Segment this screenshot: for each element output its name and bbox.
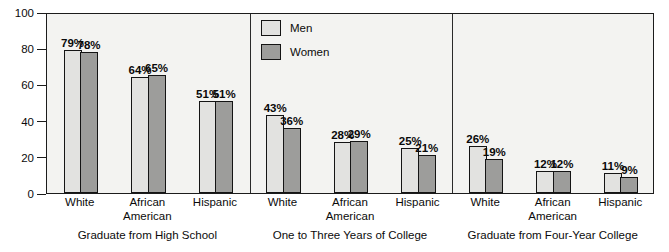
- bar-value-label: 43%: [264, 102, 287, 115]
- bar-value-label: 21%: [415, 142, 438, 155]
- x-axis-category-label: AfricanAmerican: [316, 196, 384, 223]
- y-axis-tick-mark: [37, 157, 46, 158]
- bar-group: 64%65%: [115, 14, 183, 193]
- bar-men[interactable]: 64%: [131, 77, 149, 193]
- bar-group: 79%78%: [47, 14, 115, 193]
- bar-women[interactable]: 65%: [148, 75, 166, 193]
- legend-label: Women: [290, 46, 329, 58]
- panel-caption: Graduate from Four-Year College: [451, 228, 654, 242]
- x-axis-category-line: Hispanic: [181, 196, 249, 210]
- y-axis-tick: 80: [21, 43, 46, 55]
- x-axis-category-label: Hispanic: [384, 196, 452, 210]
- x-axis-category-line: American: [114, 210, 182, 224]
- bar-group: 51%51%: [182, 14, 250, 193]
- y-axis-tick: 100: [15, 7, 46, 19]
- y-axis-tick-mark: [37, 13, 46, 14]
- y-axis-tick-mark: [37, 121, 46, 122]
- x-axis-category-line: Hispanic: [586, 196, 654, 210]
- x-axis-category-line: American: [519, 210, 587, 224]
- bar-women[interactable]: 21%: [418, 155, 436, 193]
- x-axis-category-line: American: [316, 210, 384, 224]
- bar-group: 26%19%: [452, 14, 520, 193]
- y-axis-tick: 20: [21, 152, 46, 164]
- x-axis-category-label: Hispanic: [586, 196, 654, 210]
- bar-pair: 25%21%: [385, 14, 453, 193]
- y-axis-tick-label: 60: [21, 79, 34, 91]
- bar-women[interactable]: 19%: [485, 159, 503, 193]
- y-axis: 020406080100: [0, 0, 46, 252]
- bar-pair: 11%9%: [587, 14, 655, 193]
- y-axis-tick-label: 0: [28, 188, 34, 200]
- bar-men[interactable]: 79%: [64, 50, 82, 193]
- bar-value-label: 78%: [78, 39, 101, 52]
- x-axis-category-label: White: [451, 196, 519, 210]
- bar-value-label: 26%: [466, 133, 489, 146]
- bar-pair: 64%65%: [115, 14, 183, 193]
- y-axis-tick-label: 100: [15, 7, 34, 19]
- chart-panel: 26%19%12%12%11%9%: [452, 14, 655, 193]
- bar-value-label: 36%: [280, 115, 303, 128]
- bar-value-label: 9%: [621, 164, 638, 177]
- bar-women[interactable]: 78%: [80, 52, 98, 193]
- x-axis-category-line: African: [114, 196, 182, 210]
- bar-women[interactable]: 36%: [283, 128, 301, 193]
- grouped-bar-chart: 020406080100 79%78%64%65%51%51%43%36%28%…: [0, 0, 669, 252]
- chart-panel: 79%78%64%65%51%51%: [47, 14, 250, 193]
- bar-pair: 51%51%: [182, 14, 250, 193]
- legend-item-women[interactable]: Women: [261, 43, 371, 60]
- bar-men[interactable]: 28%: [334, 142, 352, 193]
- bar-men[interactable]: 51%: [199, 101, 217, 193]
- bar-group: 11%9%: [587, 14, 655, 193]
- bar-women[interactable]: 9%: [620, 177, 638, 193]
- bar-value-label: 19%: [483, 146, 506, 159]
- bar-value-label: 65%: [145, 62, 168, 75]
- bar-group: 12%12%: [520, 14, 588, 193]
- bar-pair: 12%12%: [520, 14, 588, 193]
- bar-men[interactable]: 12%: [536, 171, 554, 193]
- y-axis-tick: 0: [28, 188, 46, 200]
- x-axis-category-label: AfricanAmerican: [114, 196, 182, 223]
- y-axis-tick-label: 20: [21, 152, 34, 164]
- bar-pair: 79%78%: [47, 14, 115, 193]
- x-axis-category-label: Hispanic: [181, 196, 249, 210]
- y-axis-tick-mark: [37, 49, 46, 50]
- x-axis-category-line: White: [451, 196, 519, 210]
- bar-men[interactable]: 11%: [604, 173, 622, 193]
- x-axis-labels: WhiteAfricanAmericanHispanicWhiteAfrican…: [46, 196, 654, 226]
- x-axis-category-line: African: [519, 196, 587, 210]
- bar-value-label: 29%: [348, 128, 371, 141]
- bar-value-label: 12%: [550, 158, 573, 171]
- y-axis-tick-label: 40: [21, 116, 34, 128]
- y-axis-tick-mark: [37, 194, 46, 195]
- x-axis-category-label: White: [249, 196, 317, 210]
- y-axis-tick: 40: [21, 116, 46, 128]
- y-axis-tick-mark: [37, 85, 46, 86]
- bar-women[interactable]: 12%: [553, 171, 571, 193]
- x-axis-category-line: White: [249, 196, 317, 210]
- x-axis-category-label: White: [46, 196, 114, 210]
- bar-value-label: 51%: [213, 88, 236, 101]
- panel-captions: Graduate from High SchoolOne to Three Ye…: [46, 228, 654, 248]
- bar-group: 25%21%: [385, 14, 453, 193]
- legend-swatch-women-icon: [261, 44, 281, 60]
- bar-women[interactable]: 29%: [350, 141, 368, 193]
- x-axis-category-line: White: [46, 196, 114, 210]
- bar-pair: 26%19%: [452, 14, 520, 193]
- y-axis-tick: 60: [21, 79, 46, 91]
- panel-caption: Graduate from High School: [46, 228, 249, 242]
- legend-label: Men: [290, 22, 312, 34]
- bar-women[interactable]: 51%: [215, 101, 233, 193]
- x-axis-category-line: Hispanic: [384, 196, 452, 210]
- legend-item-men[interactable]: Men: [261, 19, 371, 36]
- x-axis-category-label: AfricanAmerican: [519, 196, 587, 223]
- y-axis-tick-label: 80: [21, 43, 34, 55]
- x-axis-category-line: African: [316, 196, 384, 210]
- legend-swatch-men-icon: [261, 20, 281, 36]
- legend: MenWomen: [261, 19, 371, 67]
- panel-caption: One to Three Years of College: [249, 228, 452, 242]
